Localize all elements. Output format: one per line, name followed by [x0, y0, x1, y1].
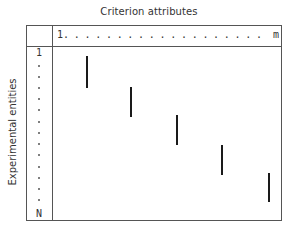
- entity-bar: [221, 145, 223, 175]
- row-ellipsis: [38, 58, 40, 208]
- column-axis: 1 ................... m: [57, 29, 279, 40]
- row-dot: [38, 132, 40, 134]
- row-dot: [38, 143, 40, 145]
- header-divider: [26, 46, 282, 47]
- row-dot: [38, 188, 40, 190]
- row-dot: [38, 65, 40, 67]
- row-start-label: 1: [36, 47, 42, 58]
- row-axis: 1 N: [30, 47, 48, 219]
- row-end-label: N: [36, 208, 42, 219]
- row-dot: [38, 98, 40, 100]
- row-dot: [38, 166, 40, 168]
- matrix-frame: [26, 25, 282, 221]
- row-dot: [38, 87, 40, 89]
- row-dot: [38, 177, 40, 179]
- entity-bar: [176, 115, 178, 145]
- row-axis-label: Experimental entities: [7, 78, 18, 185]
- column-ellipsis: ...................: [63, 29, 273, 40]
- row-dot: [38, 76, 40, 78]
- entity-bar: [130, 87, 132, 117]
- row-label-divider: [52, 25, 53, 221]
- entity-bar: [86, 56, 88, 88]
- entity-bar: [268, 173, 270, 202]
- row-dot: [38, 199, 40, 201]
- row-dot: [38, 109, 40, 111]
- diagram-title: Criterion attributes: [0, 6, 298, 17]
- column-end-label: m: [273, 29, 279, 40]
- row-dot: [38, 121, 40, 123]
- row-dot: [38, 154, 40, 156]
